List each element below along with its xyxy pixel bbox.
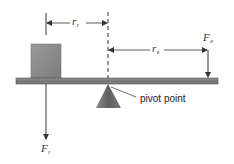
pivot-triangle xyxy=(96,84,121,108)
effort-force-label: Fe xyxy=(203,32,213,44)
lever-diagram xyxy=(0,0,234,164)
load-block xyxy=(31,44,61,78)
resistance-arm-label: rr xyxy=(72,16,79,28)
resistance-force-label: Fr xyxy=(41,143,50,155)
pivot-leader-line xyxy=(111,87,136,97)
pivot-point-label: pivot point xyxy=(140,94,186,104)
effort-arm-label: re xyxy=(152,43,159,55)
